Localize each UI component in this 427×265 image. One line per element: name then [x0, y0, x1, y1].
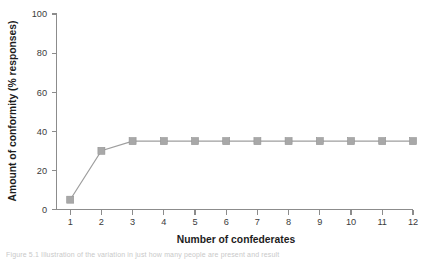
- x-tick-label-1: 1: [68, 217, 73, 227]
- y-tick-label-20: 20: [37, 166, 47, 176]
- x-tick-label-4: 4: [161, 217, 166, 227]
- data-point-5: [192, 138, 199, 145]
- data-point-12: [410, 138, 417, 145]
- line-chart: 0 20 40 60 80 100: [0, 0, 427, 248]
- x-tick-label-5: 5: [192, 217, 197, 227]
- data-point-1: [67, 196, 74, 203]
- figure-caption: Figure 5.1 Illustration of the variation…: [6, 250, 421, 259]
- conformity-series-line: [70, 141, 413, 200]
- conformity-series-markers: [67, 138, 417, 204]
- x-tick-label-3: 3: [130, 217, 135, 227]
- data-point-10: [348, 138, 355, 145]
- data-point-8: [285, 138, 292, 145]
- y-axis-ticks: [52, 14, 57, 210]
- chart-svg: 0 20 40 60 80 100: [0, 0, 427, 248]
- y-tick-label-40: 40: [37, 127, 47, 137]
- x-tick-label-6: 6: [224, 217, 229, 227]
- x-tick-label-9: 9: [317, 217, 322, 227]
- x-tick-label-8: 8: [286, 217, 291, 227]
- data-point-3: [129, 138, 136, 145]
- x-tick-label-11: 11: [377, 217, 387, 227]
- y-tick-label-0: 0: [42, 205, 47, 215]
- data-point-2: [98, 147, 105, 154]
- data-point-7: [254, 138, 261, 145]
- data-point-9: [316, 138, 323, 145]
- x-tick-label-10: 10: [346, 217, 356, 227]
- x-tick-label-12: 12: [408, 217, 418, 227]
- y-tick-label-100: 100: [32, 9, 47, 19]
- x-tick-label-7: 7: [255, 217, 260, 227]
- y-tick-label-60: 60: [37, 88, 47, 98]
- data-point-6: [223, 138, 230, 145]
- x-axis-ticks: [70, 210, 413, 215]
- y-axis-tick-labels: 0 20 40 60 80 100: [32, 9, 47, 215]
- data-point-4: [160, 138, 167, 145]
- data-point-11: [379, 138, 386, 145]
- figure-container: 0 20 40 60 80 100: [0, 0, 427, 265]
- x-tick-label-2: 2: [99, 217, 104, 227]
- x-axis-title: Number of confederates: [177, 234, 296, 245]
- y-axis-title: Amount of conformity (% responses): [7, 21, 18, 202]
- y-tick-label-80: 80: [37, 48, 47, 58]
- x-axis-tick-labels: 1 2 3 4 5 6 7 8 9 10 11 12: [68, 217, 418, 227]
